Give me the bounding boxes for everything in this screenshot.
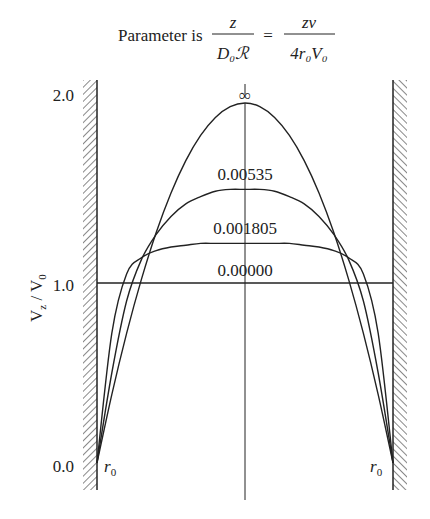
svg-text:z: z (229, 13, 237, 32)
svg-text:2.0: 2.0 (53, 86, 74, 105)
y-axis-ticks: 2.0 1.0 0.0 (53, 86, 74, 476)
svg-text:4r₀V₀: 4r₀V₀ (290, 44, 327, 63)
svg-text:0.0: 0.0 (53, 457, 74, 476)
svg-text:0.00535: 0.00535 (217, 165, 272, 184)
svg-text:0.001805: 0.001805 (213, 219, 277, 238)
r0-left-label: r0 (104, 457, 117, 478)
svg-text:∞: ∞ (239, 86, 251, 105)
chart-title: Parameter is z D₀ℛ = zv 4r₀V₀ (118, 13, 335, 63)
r0-right-label: r0 (370, 457, 383, 478)
svg-text:Parameter is: Parameter is (118, 26, 203, 45)
svg-text:D₀ℛ: D₀ℛ (216, 44, 250, 63)
svg-text:1.0: 1.0 (53, 276, 74, 295)
svg-text:=: = (263, 26, 273, 45)
y-axis-label: Vz / V0 (27, 274, 48, 322)
right-wall (393, 80, 407, 490)
chart: Parameter is z D₀ℛ = zv 4r₀V₀ 2.0 1.0 0.… (0, 0, 430, 519)
svg-text:0.00000: 0.00000 (217, 261, 272, 280)
svg-text:zv: zv (301, 13, 317, 32)
left-wall (83, 80, 97, 490)
